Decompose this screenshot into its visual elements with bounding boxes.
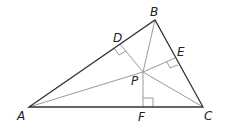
segment-PD: [120, 44, 143, 72]
label-D: D: [113, 31, 122, 45]
label-P: P: [131, 74, 139, 88]
segment-PE: [143, 58, 175, 72]
label-A: A: [16, 109, 25, 123]
label-B: B: [150, 5, 158, 19]
triangle-diagram: A B C D E P F: [0, 0, 225, 127]
right-angle-F: [143, 98, 153, 107]
label-E: E: [177, 45, 185, 59]
right-angle-E: [167, 62, 178, 68]
label-C: C: [204, 109, 213, 123]
segment-AP: [29, 72, 143, 107]
label-F: F: [138, 110, 146, 124]
